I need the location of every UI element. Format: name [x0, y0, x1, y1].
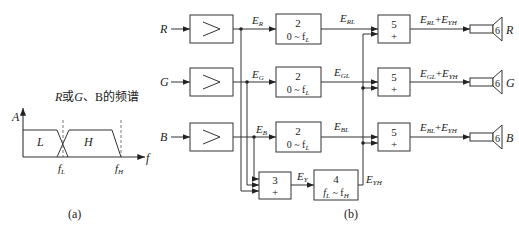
- svg-text:6: 6: [495, 25, 500, 36]
- label-ERL: ERL: [339, 12, 355, 26]
- bandpass-filter-4: 4 fL ~ fH: [314, 170, 358, 200]
- channel-label-R: R: [505, 23, 514, 37]
- output-label-B: EBL+EYH: [419, 121, 458, 135]
- diagram-canvas: R或G、B的频谱 A f L H fL fH (a) R G B: [0, 0, 519, 229]
- amplifier-B: [190, 123, 233, 151]
- label-EG: EG: [251, 68, 264, 82]
- tick-fL: fL: [58, 162, 65, 176]
- svg-text:5: 5: [391, 126, 397, 138]
- svg-text:+: +: [391, 30, 397, 42]
- svg-text:2: 2: [295, 125, 301, 137]
- block-diagram-panel-b: R G B ER EG EB: [159, 12, 515, 221]
- svg-text:6: 6: [495, 78, 500, 89]
- svg-text:+: +: [391, 138, 397, 150]
- svg-text:+: +: [391, 83, 397, 95]
- label-ER: ER: [251, 14, 264, 28]
- svg-text:+: +: [272, 186, 278, 198]
- adder-3: 3 +: [259, 172, 291, 199]
- caption-a: (a): [68, 207, 81, 221]
- input-B: B: [160, 130, 168, 144]
- lowpass-filter-B: 2 0 ~ fL: [276, 122, 321, 152]
- y-axis-label: A: [11, 110, 20, 124]
- output-label-R: ERL+EYH: [419, 13, 458, 27]
- speaker-icon-R: 6 R: [470, 17, 514, 41]
- svg-text:6: 6: [495, 133, 500, 144]
- output-label-G: EGL+EYH: [419, 67, 459, 81]
- amplifier-G: [190, 68, 233, 96]
- spectrum-panel-a: R或G、B的频谱 A f L H fL fH (a): [11, 89, 151, 221]
- input-R: R: [159, 22, 168, 36]
- label-EY: EY: [296, 170, 309, 184]
- adder-5-R: 5 +: [378, 15, 410, 43]
- low-band-label: L: [36, 135, 44, 149]
- label-EGL: EGL: [333, 66, 350, 80]
- x-axis-label: f: [146, 151, 151, 165]
- amplifier-R: [190, 15, 233, 43]
- caption-b: (b): [344, 207, 358, 221]
- spectrum-title: R或G、B的频谱: [54, 89, 139, 104]
- low-band-curve: [23, 130, 68, 157]
- tick-fH: fH: [115, 162, 124, 176]
- svg-text:2: 2: [295, 70, 301, 82]
- label-EB: EB: [255, 123, 268, 137]
- lowpass-filter-G: 2 0 ~ fL: [276, 67, 321, 97]
- high-band-label: H: [83, 135, 94, 149]
- channel-label-G: G: [506, 76, 515, 90]
- input-G: G: [160, 75, 169, 89]
- svg-text:5: 5: [391, 18, 397, 30]
- svg-text:5: 5: [391, 71, 397, 83]
- label-EYH: EYH: [365, 173, 383, 187]
- svg-text:4: 4: [333, 173, 339, 185]
- svg-text:3: 3: [272, 174, 278, 186]
- label-EBL: EBL: [333, 120, 349, 134]
- speaker-icon-B: 6 B: [470, 125, 514, 149]
- channel-label-B: B: [506, 131, 514, 145]
- speaker-icon-G: 6 G: [470, 70, 515, 94]
- svg-text:2: 2: [295, 17, 301, 29]
- lowpass-filter-R: 2 0 ~ fL: [276, 14, 321, 44]
- adder-5-G: 5 +: [378, 68, 410, 96]
- adder-5-B: 5 +: [378, 123, 410, 151]
